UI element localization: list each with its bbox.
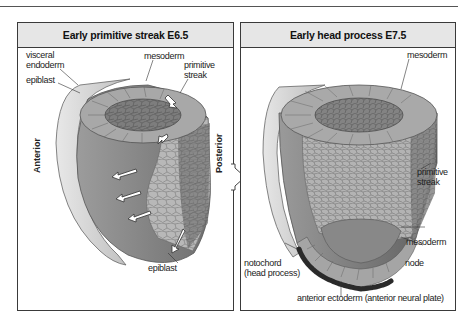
label-primitive-streak-line2: streak bbox=[184, 70, 207, 80]
panel-early-head-process: Early head process E7.5 bbox=[240, 22, 456, 311]
label-anterior: Anterior bbox=[32, 138, 42, 173]
label-notochord-line2: (head process) bbox=[244, 268, 300, 278]
label-mesoderm-top: mesoderm bbox=[407, 50, 447, 60]
top-rule bbox=[0, 6, 458, 7]
label-posterior: Posterior bbox=[214, 133, 224, 173]
label-epiblast-bottom: epiblast bbox=[148, 263, 177, 273]
label-primitive-streak-line1: primitive bbox=[184, 60, 215, 70]
label-mesoderm-bottom: mesoderm bbox=[406, 237, 446, 247]
panel-early-primitive-streak: Early primitive streak E6.5 bbox=[17, 22, 234, 311]
label-visceral-endoderm-line2: endoderm bbox=[26, 60, 64, 70]
label-epiblast-top: epiblast bbox=[26, 75, 55, 85]
label-notochord-line1: notochord bbox=[244, 258, 281, 268]
label-anterior-ectoderm: anterior ectoderm (anterior neural plate… bbox=[297, 293, 444, 303]
label-mesoderm: mesoderm bbox=[144, 51, 184, 61]
label-primitive-streak-line2: streak bbox=[417, 177, 440, 187]
label-visceral-endoderm-line1: visceral bbox=[26, 50, 54, 60]
label-primitive-streak-line1: primitive bbox=[417, 167, 448, 177]
label-node: node bbox=[405, 258, 424, 268]
